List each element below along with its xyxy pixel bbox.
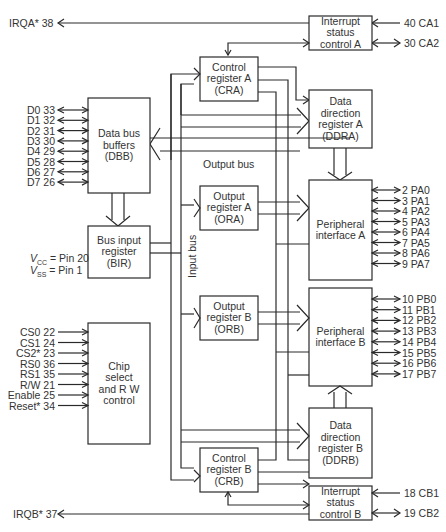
data-pin: D7 26 xyxy=(0,176,55,188)
control-register-b: Controlregister B(CRB) xyxy=(200,448,258,492)
data-bus-buffers: Data busbuffers(DBB) xyxy=(88,98,150,193)
cb1-pin: 18 CB1 xyxy=(404,487,439,499)
port_a-pin: 9 PA7 xyxy=(402,258,430,270)
bus-input-register: Bus inputregister(BIR) xyxy=(88,226,150,278)
port_b-pin: 17 PB7 xyxy=(402,368,436,380)
irqa-pin: IRQA* 38 xyxy=(9,17,53,29)
vss-label: VSS = Pin 1 xyxy=(30,264,82,281)
input-bus-label: Input bus xyxy=(186,235,198,278)
peripheral-interface-a: Peripheralinterface A xyxy=(309,180,372,280)
ca2-pin: 30 CA2 xyxy=(404,37,439,49)
chip-select-rw-control: Chipselectand R Wcontrol xyxy=(88,323,150,444)
output-register-a: Outputregister A(ORA) xyxy=(200,186,258,230)
interrupt-status-control-a: Interruptstatuscontrol A xyxy=(309,16,372,50)
interrupt-status-control-b: Interruptstatuscontrol B xyxy=(309,486,372,520)
output-bus-label: Output bus xyxy=(203,158,254,170)
control-pin: Reset* 34 xyxy=(0,400,55,412)
cb2-pin: 19 CB2 xyxy=(404,507,439,519)
peripheral-interface-b: Peripheralinterface B xyxy=(309,288,372,386)
data-direction-register-a: Data directionregister A(DDRA) xyxy=(309,90,372,148)
pia-block-diagram: IRQA* 38 IRQB* 37 40 CA1 30 CA2 18 CB1 1… xyxy=(0,0,446,532)
control-register-a: Controlregister A(CRA) xyxy=(200,57,258,101)
data-direction-register-b: Data directionregister B(DDRB) xyxy=(309,408,372,478)
irqb-pin: IRQB* 37 xyxy=(13,508,57,520)
ca1-pin: 40 CA1 xyxy=(404,17,439,29)
output-register-b: Outputregister B(ORB) xyxy=(200,296,258,340)
